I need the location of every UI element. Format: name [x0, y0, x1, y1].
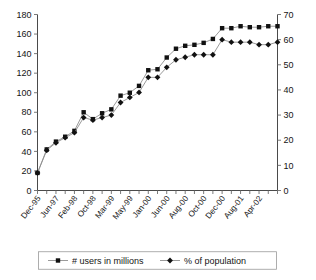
right-axis-tick-label: 10 [284, 161, 294, 171]
data-point-square [220, 26, 224, 30]
right-axis-tick-label: 30 [284, 110, 294, 120]
data-point-diamond [182, 54, 188, 60]
chart-container: 020406080100120140160180 010203040506070… [0, 0, 316, 280]
data-point-square [174, 47, 178, 51]
data-point-diamond [136, 90, 142, 96]
legend-item-label: # users in millions [72, 256, 144, 266]
data-point-diamond [201, 52, 207, 58]
data-point-square [155, 67, 159, 71]
right-axis: 010203040506070 [278, 10, 294, 196]
data-point-square [81, 110, 85, 114]
right-axis-tick-label: 40 [284, 85, 294, 95]
data-point-square [165, 55, 169, 59]
left-axis-tick-label: 20 [21, 166, 31, 176]
data-point-diamond [228, 39, 234, 45]
data-point-square [128, 91, 132, 95]
left-axis-tick-label: 80 [21, 107, 31, 117]
data-point-square [192, 43, 196, 47]
data-point-diamond [275, 39, 281, 45]
data-point-diamond [247, 39, 253, 45]
right-axis-tick-label: 60 [284, 35, 294, 45]
x-axis-tick-label: May-99 [111, 194, 135, 221]
right-axis-tick-label: 70 [284, 10, 294, 20]
data-point-diamond [99, 115, 105, 121]
data-point-square [201, 41, 205, 45]
data-point-square [266, 24, 270, 28]
x-axis-tick-label: Aug-00 [167, 194, 191, 221]
data-point-diamond [219, 37, 225, 43]
right-axis-tick-label: 0 [284, 186, 289, 196]
left-axis-tick-label: 180 [16, 10, 31, 20]
data-point-square [137, 84, 141, 88]
left-axis-tick-label: 140 [16, 49, 31, 59]
left-axis-tick-label: 60 [21, 127, 31, 137]
series-layer [35, 24, 281, 176]
legend-item-label: % of population [184, 256, 246, 266]
left-axis-tick-label: 100 [16, 88, 31, 98]
data-point-square [257, 25, 261, 29]
data-point-square [248, 25, 252, 29]
series-2 [35, 37, 281, 176]
x-axis-tick-label: Dec-95 [19, 194, 43, 221]
left-axis-tick-label: 160 [16, 29, 31, 39]
left-axis: 020406080100120140160180 [16, 10, 37, 196]
right-axis-tick-label: 50 [284, 60, 294, 70]
chart-legend: # users in millions% of population [39, 252, 277, 270]
data-point-square [211, 37, 215, 41]
data-point-diamond [210, 52, 216, 58]
data-point-square [183, 44, 187, 48]
data-point-diamond [256, 42, 262, 48]
data-point-square [275, 24, 279, 28]
left-axis-tick-label: 0 [26, 186, 31, 196]
x-axis-tick-label: Aug-01 [222, 194, 246, 221]
data-point-square [118, 93, 122, 97]
x-axis-tick-label: Feb-98 [56, 194, 79, 220]
data-point-diamond [265, 42, 271, 48]
data-point-diamond [238, 39, 244, 45]
data-point-diamond [192, 52, 198, 58]
data-point-diamond [127, 95, 133, 101]
data-point-square [238, 24, 242, 28]
data-point-diamond [145, 74, 151, 80]
data-point-square [229, 26, 233, 30]
x-axis: Dec-95Jun-97Feb-98Oct-98Mar-99May-99Jan-… [19, 191, 277, 222]
series-line [38, 40, 278, 173]
series-1 [35, 24, 279, 175]
right-axis-tick-label: 20 [284, 135, 294, 145]
data-point-square [56, 258, 60, 262]
data-point-square [146, 68, 150, 72]
series-line [38, 26, 278, 173]
data-point-square [109, 107, 113, 111]
x-axis-tick-label: Apr-02 [242, 194, 264, 219]
left-axis-tick-label: 120 [16, 68, 31, 78]
line-chart: 020406080100120140160180 010203040506070… [0, 0, 316, 280]
left-axis-tick-label: 40 [21, 147, 31, 157]
